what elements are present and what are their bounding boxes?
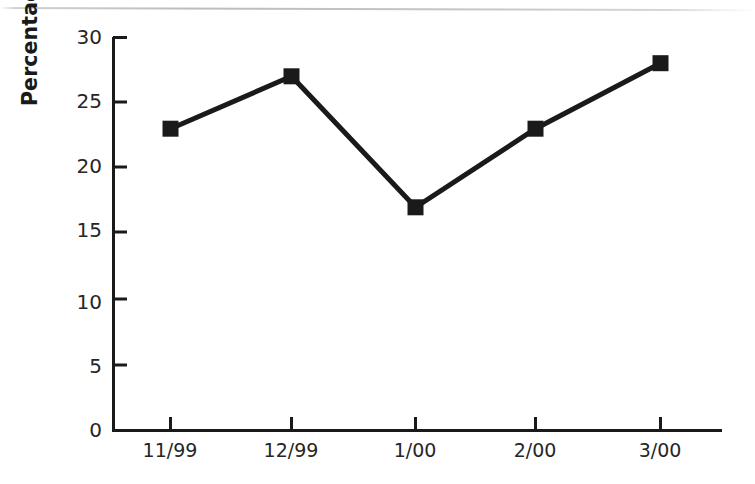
plot-canvas bbox=[0, 0, 755, 484]
data-point-marker bbox=[163, 121, 179, 137]
chart-page: Percentage pf Compliance 30 25 20 15 10 … bbox=[0, 0, 755, 484]
data-series-line bbox=[171, 63, 661, 207]
x-axis-ticks bbox=[171, 417, 661, 430]
y-axis-ticks bbox=[113, 38, 127, 366]
line-chart: Percentage pf Compliance 30 25 20 15 10 … bbox=[0, 0, 755, 484]
data-point-markers bbox=[163, 55, 669, 215]
data-point-marker bbox=[528, 121, 544, 137]
data-point-marker bbox=[284, 68, 300, 84]
data-point-marker bbox=[408, 199, 424, 215]
data-point-marker bbox=[653, 55, 669, 71]
